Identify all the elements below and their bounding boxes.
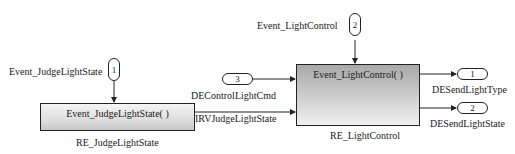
- inport-2-label: Event_LightControl: [257, 21, 338, 31]
- block-title: Event_JudgeLightState( ): [41, 108, 194, 119]
- block-name-label: RE_JudgeLightState: [76, 138, 159, 148]
- block-name-label: RE_LightControl: [330, 131, 400, 141]
- inport-3-label: DEControlLightCmd: [191, 91, 276, 101]
- outport-2[interactable]: 2: [457, 102, 488, 114]
- runnable-block-light-control[interactable]: Event_LightControl( ): [296, 64, 420, 126]
- block-title: Event_LightControl( ): [297, 69, 419, 80]
- outport-1-label: DESendLightType: [432, 85, 507, 95]
- inport-3[interactable]: 3: [222, 73, 253, 85]
- inport-1[interactable]: 1: [108, 58, 120, 81]
- signal-label-irv: IRVJudgeLightState: [195, 114, 276, 124]
- inport-1-label: Event_JudgeLightState: [9, 67, 102, 77]
- runnable-block-judge-light-state[interactable]: Event_JudgeLightState( ): [40, 103, 195, 131]
- inport-2[interactable]: 2: [349, 13, 361, 36]
- outport-2-label: DESendLightState: [430, 119, 505, 129]
- outport-1[interactable]: 1: [457, 68, 488, 80]
